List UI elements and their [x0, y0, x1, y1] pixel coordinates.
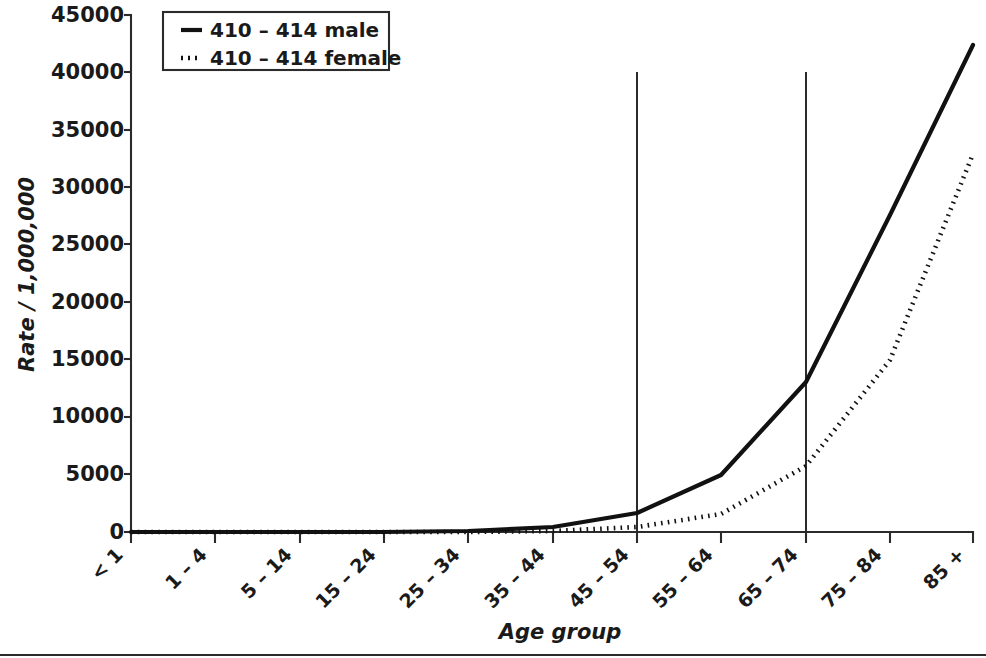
y-tick-label: 30000 [51, 175, 124, 199]
y-tick-label: 20000 [51, 290, 124, 314]
y-tick-label: 40000 [51, 60, 124, 84]
legend-item-male: 410 – 414 male [181, 18, 379, 42]
chart-background [0, 0, 986, 658]
legend-label-female: 410 – 414 female [210, 46, 401, 70]
chart-figure: Rate / 1,000,000 45000 40000 35000 30000… [0, 0, 986, 658]
y-tick-label: 15000 [51, 347, 124, 371]
y-tick-label: 10000 [51, 404, 124, 428]
y-axis-title: Rate / 1,000,000 [15, 177, 39, 372]
chart-legend: 410 – 414 male 410 – 414 female [163, 12, 401, 70]
y-tick-label: 5000 [66, 462, 124, 486]
y-tick-label: 35000 [51, 118, 124, 142]
line-chart-canvas: Rate / 1,000,000 45000 40000 35000 30000… [0, 0, 986, 658]
legend-item-female: 410 – 414 female [181, 46, 401, 70]
legend-label-male: 410 – 414 male [210, 18, 379, 42]
y-tick-label: 45000 [51, 3, 124, 27]
y-tick-label: 25000 [51, 232, 124, 256]
y-tick-label: 0 [109, 520, 124, 544]
x-axis-title: Age group [497, 620, 622, 644]
